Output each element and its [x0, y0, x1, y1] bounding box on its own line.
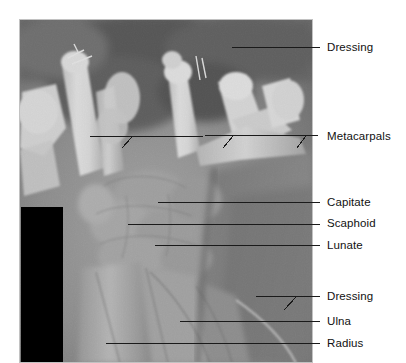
annotation-label-dressing-lower: Dressing [327, 290, 373, 302]
xray-image [0, 0, 406, 363]
annotation-label-dressing-upper: Dressing [327, 41, 373, 53]
annotation-label-lunate: Lunate [327, 239, 363, 251]
annotation-label-capitate: Capitate [327, 196, 371, 208]
annotation-label-scaphoid: Scaphoid [327, 217, 376, 229]
annotated-xray-figure: Dressing Metacarpals Capitate Scaphoid L… [0, 0, 406, 363]
annotation-label-metacarpals: Metacarpals [327, 130, 391, 142]
film-grain [19, 19, 313, 363]
radiograph-panel [12, 15, 325, 363]
annotation-label-ulna: Ulna [327, 315, 351, 327]
annotation-label-radius: Radius [327, 337, 363, 349]
black-mask-rectangle [21, 207, 63, 362]
